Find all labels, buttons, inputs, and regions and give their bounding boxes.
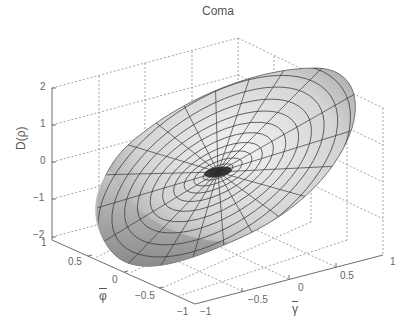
plot-axes bbox=[0, 0, 410, 332]
coma-surface-plot: Coma bbox=[0, 0, 410, 332]
gamma-tick-0: 0 bbox=[298, 282, 304, 293]
z-axis-label: D(ρ) bbox=[14, 127, 28, 150]
phi-tick-0.5: 0.5 bbox=[68, 256, 82, 267]
phi-tick-1: 1 bbox=[41, 237, 47, 248]
z-tick-2: 2 bbox=[40, 81, 46, 92]
z-tick-neg1: −1 bbox=[33, 192, 44, 203]
gamma-tick-neg0.5: −0.5 bbox=[248, 294, 268, 305]
gamma-tick-1: 1 bbox=[390, 256, 396, 267]
z-tick-0: 0 bbox=[40, 155, 46, 166]
gamma-axis-label: γ bbox=[292, 302, 298, 316]
phi-tick-0: 0 bbox=[112, 274, 118, 285]
gamma-tick-0.5: 0.5 bbox=[340, 270, 354, 281]
phi-tick-neg0.5: −0.5 bbox=[135, 290, 155, 301]
phi-axis-label: φ bbox=[99, 289, 107, 303]
gamma-tick-neg1: −1 bbox=[200, 306, 211, 317]
z-tick-1: 1 bbox=[40, 118, 46, 129]
phi-tick-neg1: −1 bbox=[177, 306, 188, 317]
gamma-axis bbox=[195, 255, 383, 304]
